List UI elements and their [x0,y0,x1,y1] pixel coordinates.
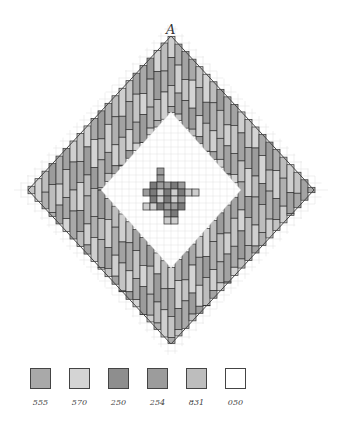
legend-item: 555 [30,368,51,407]
swatch-code: 831 [189,398,204,407]
legend-item: 250 [108,368,129,407]
legend-item: 831 [186,368,207,407]
point-label-a: A [166,22,175,37]
swatch [30,368,51,389]
swatch-code: 050 [228,398,243,407]
legend-item: 254 [147,368,168,407]
swatch [186,368,207,389]
swatch [147,368,168,389]
legend-item: 570 [69,368,90,407]
color-legend: 555 570 250 254 831 050 [30,368,246,407]
legend-item: 050 [225,368,246,407]
swatch-code: 254 [150,398,165,407]
swatch [69,368,90,389]
swatch [225,368,246,389]
swatch-code: 250 [111,398,126,407]
swatch-code: 555 [33,398,48,407]
swatch-code: 570 [72,398,87,407]
diamond-pattern [0,0,341,360]
swatch [108,368,129,389]
